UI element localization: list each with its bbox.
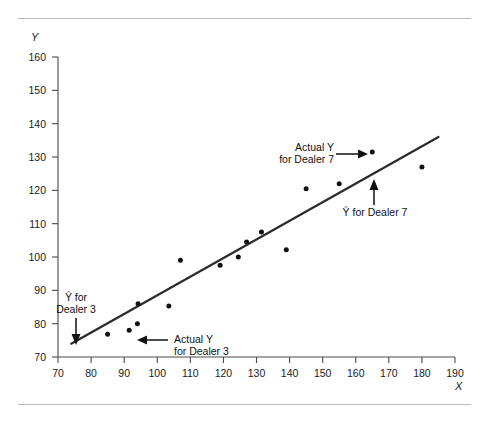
arrow-fitted-y-dealer-7 <box>370 179 379 205</box>
x-tick-label-100: 100 <box>144 368 170 379</box>
callout-actual-y-dealer-3-line2: for Dealer 3 <box>174 345 284 357</box>
arrow-fitted-y-dealer-3 <box>72 318 81 345</box>
callout-fitted-y-dealer-3-line2: Dealer 3 <box>40 303 112 315</box>
callout-actual-y-dealer-7-line1: Actual Y <box>212 141 334 153</box>
regression-line <box>71 137 438 344</box>
data-point <box>135 321 140 326</box>
arrow-actual-y-dealer-7 <box>336 150 368 159</box>
y-tick-label-80: 80 <box>20 319 46 330</box>
data-point <box>337 181 342 186</box>
callout-actual-y-dealer-3-line1: Actual Y <box>174 333 284 345</box>
x-tick-label-180: 180 <box>409 368 435 379</box>
data-point <box>166 304 171 309</box>
data-point <box>259 230 264 235</box>
data-point <box>136 301 141 306</box>
y-tick-label-160: 160 <box>20 52 46 63</box>
figure-container: Y X 708090100110120130140150160 70809010… <box>0 0 489 427</box>
data-point <box>244 240 249 245</box>
callout-actual-y-dealer-7-line2: for Dealer 7 <box>212 153 334 165</box>
data-point <box>178 258 183 263</box>
callout-fitted-y-dealer-7: Ŷ for Dealer 7 <box>330 206 420 218</box>
callout-fitted-y-dealer-3-line1: Ŷ for <box>40 291 112 303</box>
x-axis-title: X <box>455 381 462 392</box>
data-points-group <box>105 150 424 337</box>
x-tick-label-120: 120 <box>210 368 236 379</box>
y-axis-title: Y <box>31 32 38 43</box>
x-tick-label-80: 80 <box>78 368 104 379</box>
y-tick-label-150: 150 <box>20 85 46 96</box>
x-tick-label-110: 110 <box>177 368 203 379</box>
data-point <box>105 332 110 337</box>
data-point <box>127 328 132 333</box>
arrow-actual-y-dealer-3 <box>137 336 168 345</box>
data-point <box>419 165 424 170</box>
x-tick-label-150: 150 <box>310 368 336 379</box>
callout-arrows-group <box>72 150 379 346</box>
callout-actual-y-dealer-3: Actual Y for Dealer 3 <box>174 333 284 358</box>
x-axis-ticks <box>58 357 455 363</box>
data-point <box>236 255 241 260</box>
x-tick-label-160: 160 <box>343 368 369 379</box>
x-tick-label-190: 190 <box>442 368 468 379</box>
y-tick-label-120: 120 <box>20 185 46 196</box>
x-tick-label-130: 130 <box>244 368 270 379</box>
data-point <box>218 263 223 268</box>
x-tick-label-90: 90 <box>111 368 137 379</box>
callout-fitted-y-dealer-3: Ŷ for Dealer 3 <box>40 291 112 316</box>
data-point <box>370 150 375 155</box>
regression-line-group <box>71 137 438 344</box>
x-tick-label-170: 170 <box>376 368 402 379</box>
y-tick-label-70: 70 <box>20 352 46 363</box>
x-tick-label-70: 70 <box>45 368 71 379</box>
y-tick-label-100: 100 <box>20 252 46 263</box>
y-tick-label-130: 130 <box>20 152 46 163</box>
x-tick-label-140: 140 <box>277 368 303 379</box>
y-tick-label-110: 110 <box>20 219 46 230</box>
y-tick-label-140: 140 <box>20 119 46 130</box>
data-point <box>284 247 289 252</box>
callout-actual-y-dealer-7: Actual Y for Dealer 7 <box>212 141 334 166</box>
data-point <box>304 186 309 191</box>
